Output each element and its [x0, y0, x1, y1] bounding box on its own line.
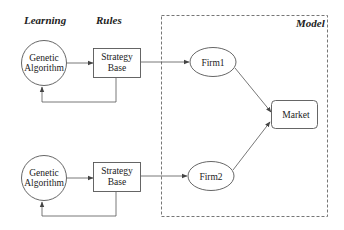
ga1-node: Genetic Algorithm [22, 41, 67, 86]
firm1-node: Firm1 [190, 48, 236, 77]
sb1-node: Strategy Base [94, 49, 141, 78]
sb1-label-line1: Strategy [101, 52, 133, 62]
ga1-label-line1: Genetic [29, 53, 59, 63]
sb2-label-line2: Base [108, 177, 126, 187]
sb1-label-line2: Base [108, 63, 126, 73]
ga1-label-line2: Algorithm [24, 63, 64, 73]
rules-label: Rules [95, 14, 122, 26]
firm2-label: Firm2 [199, 172, 222, 182]
market-node: Market [272, 101, 318, 129]
learning-label: Learning [23, 14, 67, 26]
edge-firm2-market [233, 122, 270, 170]
diagram-canvas: Learning Rules Model Genetic Algorithm S… [0, 0, 344, 230]
firm1-label: Firm1 [201, 58, 224, 68]
sb2-node: Strategy Base [94, 163, 141, 192]
edge-firm1-market [235, 68, 271, 112]
model-label: Model [295, 17, 326, 29]
sb2-label-line1: Strategy [101, 166, 133, 176]
ga2-node: Genetic Algorithm [22, 156, 67, 201]
firm2-node: Firm2 [188, 162, 234, 191]
market-label: Market [282, 110, 310, 120]
ga2-label-line2: Algorithm [24, 178, 64, 188]
ga2-label-line1: Genetic [29, 168, 59, 178]
